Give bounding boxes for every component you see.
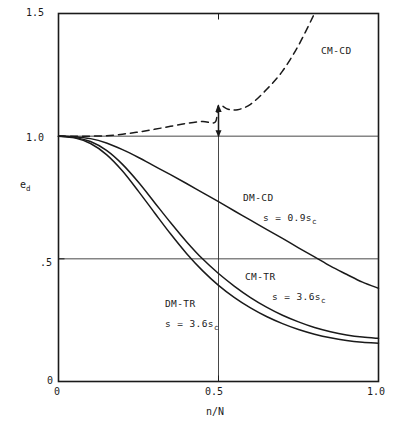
curve-condition-dm-tr-text: s = 3.6s [165,318,214,329]
x-tick-label-0.5: 0.5 [205,387,223,397]
x-tick-label-1.0: 1.0 [367,387,385,397]
curve-label-cm-cd: CM-CD [321,46,352,56]
x-tick-label-0: 0 [54,387,60,397]
curve-condition-dm-cd: s = 0.9sc [263,213,317,225]
curve-label-dm-cd: DM-CD [243,193,274,203]
curve-condition-cm-tr-subscript: c [321,296,326,305]
curve-condition-dm-tr-subscript: c [214,323,219,332]
y-tick-label-0.5: .5 [40,258,52,268]
y-axis-title-subscript: d [26,184,31,193]
x-axis-title: n/N [206,407,224,417]
curve-condition-dm-cd-subscript: c [312,217,317,226]
curve-condition-cm-tr: s = 3.6sc [272,292,326,304]
curve-label-cm-tr: CM-TR [245,272,276,282]
curve-cm-cd [59,14,315,137]
curve-condition-dm-tr: s = 3.6sc [165,319,219,331]
plot-canvas [0,0,403,428]
reference-gridlines [59,136,379,381]
y-tick-label-1.5: 1.5 [26,8,44,18]
chart-figure: 1.5 1.0 .5 0 ed 0 0.5 1.0 n/N CM-CD DM-C… [0,0,403,428]
curve-condition-dm-cd-text: s = 0.9s [263,212,312,223]
curve-condition-cm-tr-text: s = 3.6s [272,291,321,302]
curve-label-dm-tr: DM-TR [165,299,196,309]
jump-arrowhead-up [215,105,221,113]
y-axis-title: ed [20,180,31,193]
y-tick-label-0: 0 [47,376,53,386]
y-tick-label-1.0: 1.0 [26,133,44,143]
